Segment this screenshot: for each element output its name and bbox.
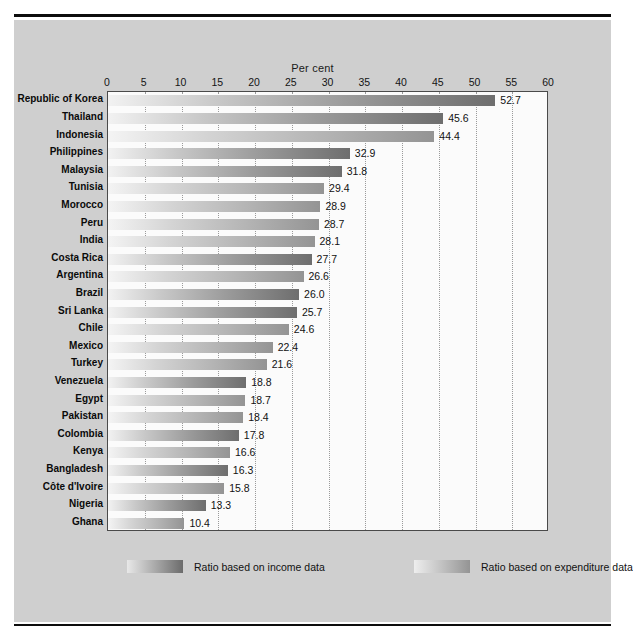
category-label: Costa Rica [51,252,103,264]
bottom-rule [14,624,611,626]
x-tick-label: 15 [211,76,223,88]
bar-value-label: 18.4 [248,411,268,423]
x-tick-label: 55 [505,76,517,88]
bar [108,483,224,494]
category-label: Malaysia [61,164,103,176]
category-label: Argentina [56,269,103,281]
bar [108,95,495,106]
legend-label: Ratio based on income data [194,561,325,573]
category-label: Mexico [69,340,103,352]
x-tick-label: 30 [322,76,334,88]
x-tick-label: 5 [141,76,147,88]
category-label: Indonesia [56,129,103,141]
bar-value-label: 52.7 [500,94,520,106]
bar-value-label: 28.7 [324,218,344,230]
bar [108,447,230,458]
bar-value-label: 44.4 [439,130,459,142]
bar-value-label: 18.7 [250,394,270,406]
bar-value-label: 21.6 [272,358,292,370]
bar-value-label: 27.7 [317,253,337,265]
plot-area: 52.745.644.432.931.829.428.928.728.127.7… [107,91,548,531]
x-tick-label: 35 [358,76,370,88]
bar-value-label: 28.1 [320,235,340,247]
bar [108,359,267,370]
category-label: Côte d'Ivoire [43,481,103,493]
bar [108,289,299,300]
bar [108,148,350,159]
bar-value-label: 26.6 [309,270,329,282]
chart-legend: Ratio based on income dataRatio based on… [14,560,611,584]
category-label: Turkey [71,357,103,369]
chart-panel: Per cent 051015202530354045505560 Republ… [14,20,611,622]
x-tick-label: 10 [175,76,187,88]
legend-item[interactable]: Ratio based on income data [127,560,325,573]
bar [108,324,289,335]
category-label: Morocco [61,199,103,211]
bar [108,395,245,406]
bar [108,166,342,177]
category-label: Egypt [75,393,103,405]
bar [108,518,184,529]
bar [108,183,324,194]
bar-value-label: 10.4 [189,517,209,529]
bar [108,377,246,388]
category-label: Thailand [62,111,103,123]
x-tick-label: 0 [104,76,110,88]
bar-value-label: 16.3 [233,464,253,476]
category-label: Brazil [76,287,103,299]
bar-value-label: 32.9 [355,147,375,159]
bar-value-label: 18.8 [251,376,271,388]
legend-item[interactable]: Ratio based on expenditure data [414,560,633,573]
bar-value-label: 15.8 [229,482,249,494]
x-tick-label: 50 [469,76,481,88]
bar-value-label: 16.6 [235,446,255,458]
x-axis-tick-labels: 051015202530354045505560 [107,76,548,90]
x-tick-label: 20 [248,76,260,88]
bar [108,131,434,142]
bar [108,465,228,476]
top-rule [14,14,611,17]
bar-value-label: 29.4 [329,182,349,194]
legend-swatch-expenditure [414,560,470,573]
category-label: Peru [81,217,103,229]
category-label: Nigeria [69,498,103,510]
bar [108,236,315,247]
category-axis-labels: Republic of KoreaThailandIndonesiaPhilip… [14,91,103,531]
bar-value-label: 31.8 [347,165,367,177]
bar [108,500,206,511]
category-label: Ghana [72,516,103,528]
gridline [402,92,404,530]
bar [108,412,243,423]
bar-value-label: 26.0 [304,288,324,300]
bar [108,254,312,265]
x-tick-label: 40 [395,76,407,88]
x-tick-label: 25 [285,76,297,88]
category-label: Republic of Korea [17,93,103,105]
bar-value-label: 17.8 [244,429,264,441]
gridline [439,92,441,530]
bar [108,219,319,230]
category-label: Tunisia [69,181,103,193]
bar [108,271,304,282]
bar-value-label: 28.9 [325,200,345,212]
bar-value-label: 13.3 [211,499,231,511]
category-label: Colombia [57,428,103,440]
category-label: Venezuela [55,375,103,387]
bar-value-label: 45.6 [448,112,468,124]
bar-value-label: 22.4 [278,341,298,353]
gridline [512,92,514,530]
category-label: Bangladesh [46,463,103,475]
bar [108,430,239,441]
category-label: Sri Lanka [58,305,103,317]
bar-value-label: 24.6 [294,323,314,335]
gridline [476,92,478,530]
category-label: Chile [79,322,103,334]
bar-value-label: 25.7 [302,306,322,318]
bar [108,342,273,353]
x-axis-title: Per cent [14,62,611,74]
legend-swatch-income [127,560,183,573]
category-label: Kenya [73,445,103,457]
bar [108,113,443,124]
legend-label: Ratio based on expenditure data [481,561,633,573]
